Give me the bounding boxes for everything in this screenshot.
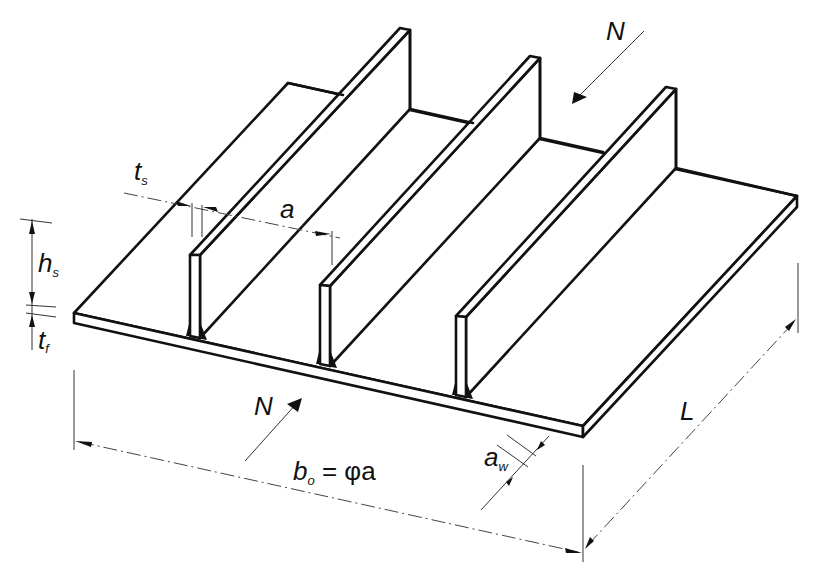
- label-force-top: N: [606, 16, 625, 46]
- stiffened-plate-diagram: N N ts a hs tf bo = φa aw L: [0, 0, 817, 577]
- label-stiffener-spacing: a: [280, 194, 294, 224]
- label-force-bottom: N: [254, 391, 273, 421]
- label-stiffener-thickness: ts: [134, 156, 148, 188]
- label-stiffener-height: hs: [38, 248, 59, 280]
- label-length: L: [680, 396, 694, 426]
- base-plate: [74, 83, 797, 437]
- label-weld-throat: aw: [484, 442, 509, 474]
- label-plate-thickness: tf: [38, 325, 50, 356]
- label-plate-width: bo = φa: [293, 456, 376, 488]
